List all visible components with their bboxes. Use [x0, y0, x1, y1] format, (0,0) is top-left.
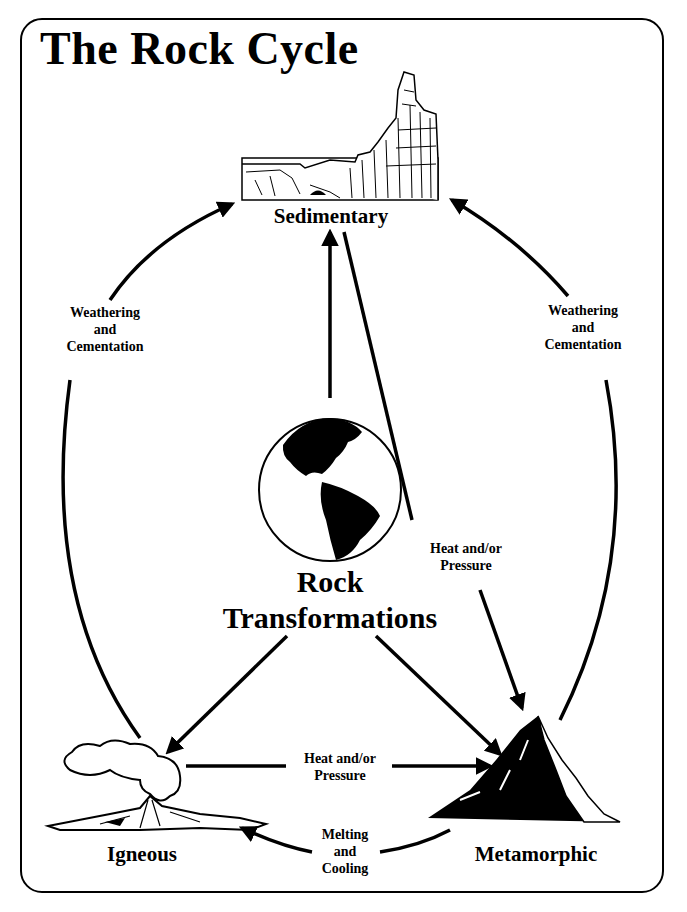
node-label-igneous: Igneous	[62, 842, 222, 867]
node-label-sedimentary: Sedimentary	[236, 204, 426, 229]
node-label-metamorphic: Metamorphic	[446, 842, 626, 867]
edge-label-meta-to-ign: Melting and Cooling	[300, 826, 390, 877]
arrow-metamorphic-to-sedimentary-upper	[452, 200, 568, 296]
arrow-metamorphic-to-igneous-right	[380, 830, 450, 852]
arrow-metamorphic-to-sedimentary-lower	[560, 380, 616, 720]
erupting-volcano-icon	[48, 740, 266, 830]
arrow-center-to-igneous	[168, 636, 287, 752]
arrow-igneous-to-sedimentary-lower	[63, 380, 140, 738]
earth-globe-icon	[259, 418, 401, 561]
arrow-sedimentary-to-metamorphic-lower	[480, 590, 522, 708]
mountain-peak-icon	[428, 716, 620, 822]
arrow-center-to-metamorphic	[376, 636, 500, 754]
edge-label-right-weathering: Weathering and Cementation	[518, 302, 648, 353]
center-label-line2: Transformations	[180, 600, 480, 636]
edge-label-sed-to-meta: Heat and/or Pressure	[406, 540, 526, 574]
center-label: Rock Transformations	[180, 564, 480, 636]
edge-label-left-weathering: Weathering and Cementation	[40, 304, 170, 355]
canyon-cliffs-icon	[242, 72, 438, 200]
edge-label-ign-to-meta: Heat and/or Pressure	[280, 750, 400, 784]
arrow-igneous-to-sedimentary-upper	[110, 204, 232, 300]
